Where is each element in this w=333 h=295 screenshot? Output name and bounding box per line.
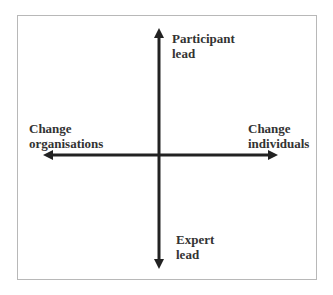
label-line: individuals xyxy=(248,136,309,151)
vertical-axis-arrow xyxy=(154,28,164,269)
label-line: lead xyxy=(176,247,214,262)
label-change-individuals: Change individuals xyxy=(248,121,309,151)
arrow-down-icon xyxy=(154,259,164,269)
label-line: Expert xyxy=(176,232,214,247)
label-expert-lead: Expert lead xyxy=(176,232,214,262)
arrow-right-icon xyxy=(268,150,278,160)
label-line: Change xyxy=(29,121,103,136)
label-line: lead xyxy=(172,46,235,61)
label-participant-lead: Participant lead xyxy=(172,31,235,61)
arrow-up-icon xyxy=(154,28,164,38)
label-line: organisations xyxy=(29,136,103,151)
label-change-organisations: Change organisations xyxy=(29,121,103,151)
label-line: Change xyxy=(248,121,309,136)
label-line: Participant xyxy=(172,31,235,46)
arrow-left-icon xyxy=(43,150,53,160)
